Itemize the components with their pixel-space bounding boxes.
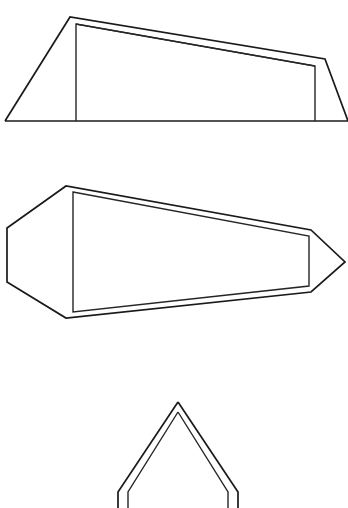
drawing-sheet [0, 0, 348, 508]
tent-views-illustration [0, 0, 348, 508]
sheet-background [0, 0, 348, 508]
